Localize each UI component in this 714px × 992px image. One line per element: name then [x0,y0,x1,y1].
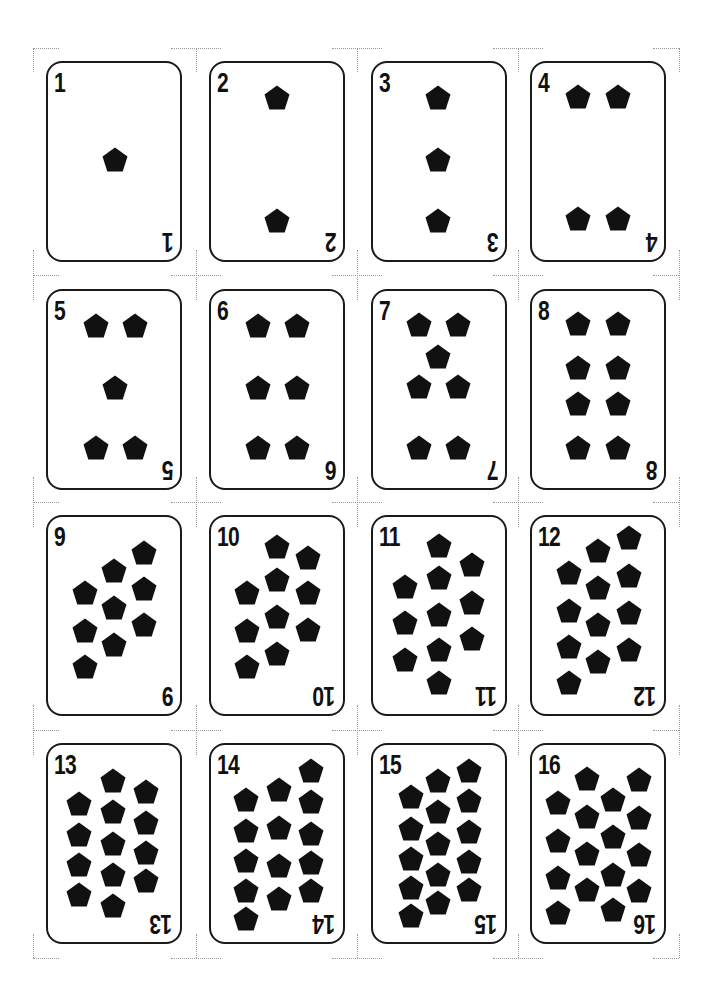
pentagon-pip-icon [605,206,631,231]
pentagon-icon [245,313,271,338]
pentagon-icon [83,313,109,338]
pentagon-pip-icon [565,84,591,109]
pentagon-icon [264,567,290,592]
pentagon-pip-icon [266,777,292,802]
card-number-bottom-right: 13 [150,912,172,936]
pentagon-icon [392,574,418,599]
pentagon-pip-icon [456,788,482,813]
pentagon-icon [545,900,571,925]
crop-mark [653,48,679,49]
card-number-top-left: 5 [54,299,65,323]
pentagon-pip-icon [122,313,148,338]
pentagon-icon [616,563,642,588]
pentagon-pip-icon [545,790,571,815]
pentagon-icon [626,767,652,792]
pentagon-icon [565,355,591,380]
pentagon-icon [233,878,259,903]
pentagon-icon [233,787,259,812]
playing-card-7: 7 7 [371,289,507,490]
pentagon-icon [133,840,159,865]
pentagon-pip-icon [233,787,259,812]
pentagon-pip-icon [626,805,652,830]
pentagon-pip-icon [264,641,290,666]
pentagon-pip-icon [131,576,157,601]
pentagon-pip-icon [459,626,485,651]
pentagon-pip-icon [266,815,292,840]
pentagon-icon [233,906,259,931]
playing-card-16: 16 16 [530,743,666,944]
pentagon-icon [574,804,600,829]
pentagon-pip-icon [425,147,451,172]
pentagon-icon [72,580,98,605]
pentagon-pip-icon [284,435,310,460]
pentagon-icon [234,654,260,679]
pentagon-icon [245,375,271,400]
pentagon-icon [101,558,127,583]
pentagon-icon [445,312,471,337]
pentagon-pip-icon [264,567,290,592]
pentagon-icon [398,816,424,841]
pentagon-pip-icon [100,831,126,856]
pentagon-icon [102,147,128,172]
pentagon-pip-icon [425,862,451,887]
pentagon-pip-icon [102,147,128,172]
card-number-top-left: 14 [217,753,239,777]
pentagon-icon [406,435,432,460]
pentagon-icon [585,649,611,674]
crop-mark [679,705,680,755]
card-number-top-left: 10 [217,525,239,549]
pentagon-pip-icon [545,900,571,925]
crop-mark [33,250,34,300]
pentagon-pip-icon [585,575,611,600]
pentagon-pip-icon [616,525,642,550]
crop-mark [653,958,679,959]
pentagon-icon [100,768,126,793]
pentagon-icon [392,647,418,672]
crop-mark [653,730,679,731]
pentagon-pip-icon [565,206,591,231]
pentagon-icon [298,878,324,903]
card-number-top-left: 8 [538,299,549,323]
pentagon-icon [456,819,482,844]
pentagon-icon [574,841,600,866]
pentagon-pip-icon [456,819,482,844]
pentagon-pip-icon [133,810,159,835]
pentagon-pip-icon [626,767,652,792]
pentagon-pip-icon [556,560,582,585]
pentagon-icon [284,435,310,460]
pentagon-icon [66,852,92,877]
card-number-bottom-right: 6 [326,458,337,482]
pentagon-icon [131,576,157,601]
crop-mark [518,48,519,72]
pentagon-pip-icon [425,799,451,824]
pentagon-icon [398,846,424,871]
pentagon-pip-icon [398,846,424,871]
pentagon-pip-icon [616,563,642,588]
card-number-top-left: 1 [54,71,65,95]
pentagon-icon [295,545,321,570]
pentagon-pip-icon [585,612,611,637]
pentagon-pip-icon [66,852,92,877]
pentagon-pip-icon [66,791,92,816]
pentagon-pip-icon [425,890,451,915]
card-sheet: 1 1 2 2 3 3 4 4 5 5 6 6 7 7 8 8 9 9 10 1… [0,0,714,992]
crop-mark [357,477,358,527]
pentagon-icon [459,590,485,615]
pentagon-icon [398,784,424,809]
playing-card-8: 8 8 [530,289,666,490]
crop-mark [357,48,358,72]
pentagon-icon [600,787,626,812]
pentagon-pip-icon [459,590,485,615]
pentagon-pip-icon [456,849,482,874]
pentagon-pip-icon [426,565,452,590]
crop-mark [493,958,543,959]
pentagon-pip-icon [66,882,92,907]
playing-card-2: 2 2 [209,61,345,262]
pentagon-pip-icon [445,312,471,337]
pentagon-pip-icon [298,758,324,783]
pentagon-pip-icon [66,822,92,847]
pentagon-icon [456,758,482,783]
pentagon-icon [605,391,631,416]
pentagon-pip-icon [574,877,600,902]
pentagon-pip-icon [100,862,126,887]
